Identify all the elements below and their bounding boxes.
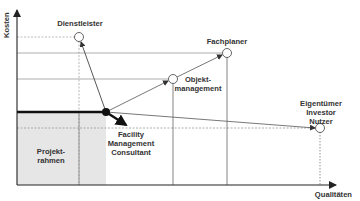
y-axis-label: Kosten	[2, 12, 11, 38]
label-fm-3: Consultant	[111, 148, 151, 157]
arrow-to-dienstleister	[81, 42, 106, 112]
label-objektmanagement-1: Objekt-	[185, 75, 212, 84]
label-project-frame-2: rahmen	[37, 156, 65, 165]
positioning-diagram: Kosten Qualitäten Dienstleister Fachplan…	[0, 0, 360, 201]
label-dienstleister: Dienstleister	[57, 19, 103, 28]
arrow-to-objektmanagement	[106, 81, 168, 112]
label-fm-1: Facility	[118, 130, 145, 139]
node-fachplaner	[223, 49, 232, 58]
label-fachplaner: Fachplaner	[207, 37, 248, 46]
label-eigentuemer-2: Investor	[306, 108, 336, 117]
arrow-to-fachplaner	[177, 55, 222, 77]
label-fm-2: Management	[108, 139, 155, 148]
node-dienstleister	[75, 33, 84, 42]
label-eigentuemer-3: Nutzer	[309, 117, 333, 126]
label-project-frame-1: Projekt-	[37, 147, 66, 156]
x-axis-label: Qualitäten	[315, 190, 352, 199]
label-objektmanagement-2: management	[175, 84, 222, 93]
node-fm-consultant	[102, 108, 110, 116]
arrow-to-eigentuemer	[106, 112, 315, 128]
node-objektmanagement	[169, 75, 178, 84]
label-eigentuemer-1: Eigentümer	[300, 99, 342, 108]
